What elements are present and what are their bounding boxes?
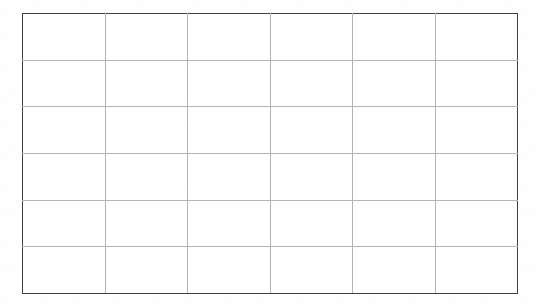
table-cell[interactable] <box>188 60 271 107</box>
table-row <box>23 247 518 294</box>
table-cell[interactable] <box>435 60 518 107</box>
table-cell[interactable] <box>353 153 436 200</box>
table-cell[interactable] <box>353 247 436 294</box>
table-cell[interactable] <box>270 14 353 61</box>
table-cell[interactable] <box>353 107 436 154</box>
table-cell[interactable] <box>188 247 271 294</box>
table-cell[interactable] <box>105 247 188 294</box>
document-page <box>0 0 540 308</box>
table-cell[interactable] <box>435 107 518 154</box>
table-cell[interactable] <box>23 247 106 294</box>
table-cell[interactable] <box>435 247 518 294</box>
table-row <box>23 153 518 200</box>
table-cell[interactable] <box>435 14 518 61</box>
table-cell[interactable] <box>23 153 106 200</box>
table-row <box>23 200 518 247</box>
table-cell[interactable] <box>105 14 188 61</box>
table-cell[interactable] <box>105 200 188 247</box>
table-cell[interactable] <box>23 107 106 154</box>
table-cell[interactable] <box>23 60 106 107</box>
table-row <box>23 60 518 107</box>
table-cell[interactable] <box>188 14 271 61</box>
table-cell[interactable] <box>270 247 353 294</box>
table-cell[interactable] <box>270 107 353 154</box>
table-cell[interactable] <box>353 200 436 247</box>
table-cell[interactable] <box>270 200 353 247</box>
table-row <box>23 14 518 61</box>
table-row <box>23 107 518 154</box>
table-cell[interactable] <box>353 14 436 61</box>
table-cell[interactable] <box>353 60 436 107</box>
table-cell[interactable] <box>188 153 271 200</box>
table-cell[interactable] <box>105 107 188 154</box>
table-cell[interactable] <box>270 153 353 200</box>
table-cell[interactable] <box>188 107 271 154</box>
table-cell[interactable] <box>23 200 106 247</box>
table-cell[interactable] <box>188 200 271 247</box>
table-cell[interactable] <box>23 14 106 61</box>
table-body <box>23 14 518 294</box>
data-table <box>22 13 518 294</box>
table-cell[interactable] <box>270 60 353 107</box>
table-cell[interactable] <box>435 153 518 200</box>
table-cell[interactable] <box>105 60 188 107</box>
table-cell[interactable] <box>105 153 188 200</box>
table-cell[interactable] <box>435 200 518 247</box>
